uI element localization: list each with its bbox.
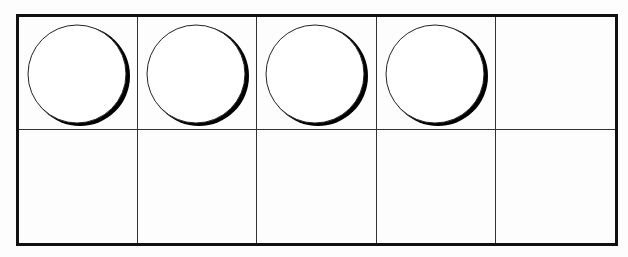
ten-frame-cell (138, 130, 257, 243)
ten-frame-cell (257, 130, 376, 243)
ten-frame-cell (138, 17, 257, 130)
counter-circle-icon (265, 23, 371, 129)
ten-frame-cell (377, 130, 496, 243)
ten-frame-cell (496, 17, 615, 130)
ten-frame-cell (496, 130, 615, 243)
counter-circle-icon (27, 23, 133, 129)
ten-frame-cell (257, 17, 376, 130)
counter-circle-icon (385, 23, 491, 129)
ten-frame-cell (19, 130, 138, 243)
counter-circle-icon (146, 23, 252, 129)
ten-frame-cell (19, 17, 138, 130)
ten-frame-cell (377, 17, 496, 130)
ten-frame (16, 14, 618, 246)
